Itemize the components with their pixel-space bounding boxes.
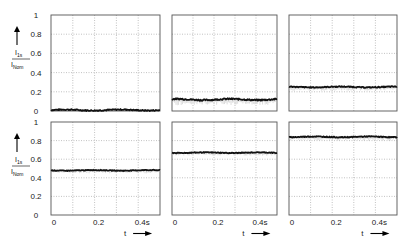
xlabel-arrow-head-icon <box>145 231 152 236</box>
trace-line <box>172 152 277 153</box>
panel-6: 00.20.4st <box>289 122 397 238</box>
x-tick-label: 0.4s <box>135 218 150 227</box>
plot-frame <box>51 122 160 215</box>
ylabel-denominator: INom <box>11 168 24 177</box>
ylabel-denominator: INom <box>11 61 24 70</box>
x-tick-label: 0 <box>173 218 178 227</box>
y-tick-label: 1 <box>34 118 39 127</box>
plot-frame <box>172 15 277 111</box>
y-tick-label: 0.8 <box>30 137 42 146</box>
x-tick-label: 0.4s <box>372 218 387 227</box>
y-tick-label: 0.2 <box>30 88 42 97</box>
panel-5: 00.20.4st <box>172 122 277 238</box>
y-tick-label: 0 <box>34 107 39 116</box>
ylabel-numerator: I1s <box>15 49 23 58</box>
y-tick-label: 0.4 <box>30 69 42 78</box>
plot-frame <box>289 15 397 111</box>
panel-4: 00.20.40.60.81I1sINom00.20.4st <box>11 118 160 238</box>
xlabel: t <box>124 229 127 238</box>
y-tick-label: 0.8 <box>30 30 42 39</box>
x-tick-label: 0 <box>52 218 57 227</box>
y-tick-label: 0.6 <box>30 155 42 164</box>
figure: 00.20.40.60.81I1sINom00.20.40.60.81I1sIN… <box>0 0 414 251</box>
x-tick-label: 0.2 <box>93 218 105 227</box>
y-tick-label: 0 <box>34 211 39 220</box>
ylabel-arrow-head-icon <box>14 26 20 32</box>
y-tick-label: 0.4 <box>30 174 42 183</box>
x-tick-label: 0.4s <box>252 218 267 227</box>
y-tick-label: 1 <box>34 11 39 20</box>
x-tick-label: 0.2 <box>331 218 343 227</box>
y-tick-label: 0.6 <box>30 49 42 58</box>
plot-frame <box>172 122 277 215</box>
xlabel: t <box>361 229 364 238</box>
trace-line <box>289 136 397 138</box>
plot-frame <box>51 15 160 111</box>
xlabel-arrow-head-icon <box>263 231 270 236</box>
panel-2 <box>172 15 277 111</box>
trace-line <box>51 170 160 171</box>
x-tick-label: 0.2 <box>212 218 224 227</box>
panel-3 <box>289 15 397 111</box>
x-tick-label: 0 <box>290 218 295 227</box>
xlabel-arrow-head-icon <box>382 231 389 236</box>
y-tick-label: 0.2 <box>30 192 42 201</box>
panel-1: 00.20.40.60.81I1sINom <box>11 11 160 116</box>
trace-line <box>289 86 397 88</box>
ylabel-numerator: I1s <box>15 156 23 165</box>
ylabel-arrow-head-icon <box>14 133 20 139</box>
xlabel: t <box>242 229 245 238</box>
